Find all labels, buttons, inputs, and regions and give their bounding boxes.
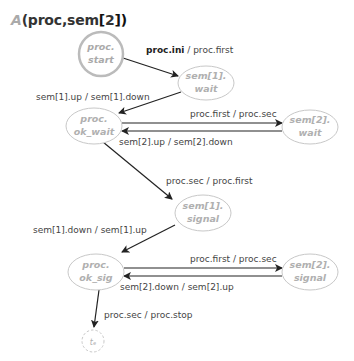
svg-text:ok_sig: ok_sig xyxy=(79,272,113,283)
node-sem2-wait: sem[2]. wait xyxy=(282,110,338,144)
svg-text:signal: signal xyxy=(294,272,327,283)
svg-text:proc.: proc. xyxy=(81,259,109,270)
svg-text:wait: wait xyxy=(195,83,218,94)
svg-text:start: start xyxy=(88,54,114,65)
svg-text:wait: wait xyxy=(299,127,322,138)
edge-label-start: proc.ini / proc.first xyxy=(146,45,234,55)
edge-label-sec-stop: proc.sec / proc.stop xyxy=(104,310,193,320)
edge-label-first-sec-wait: proc.first / proc.sec xyxy=(190,109,277,119)
edge-label-sem2-up: sem[2].up / sem[2].down xyxy=(119,137,233,147)
edge-label-sem1-down: sem[1].down / sem[1].up xyxy=(33,225,147,235)
edge-label-first-sec-sig: proc.first / proc.sec xyxy=(190,254,277,264)
edge-ok-wait-to-sem1-signal xyxy=(103,142,172,199)
edge-start-to-sem1-wait xyxy=(120,57,178,76)
svg-text:proc.: proc. xyxy=(86,41,114,52)
node-proc-ok-sig: proc. ok_sig xyxy=(68,254,124,290)
svg-text:tₑ: tₑ xyxy=(90,338,96,347)
node-proc-start: proc. start xyxy=(79,32,123,76)
state-diagram: proc.ini / proc.first sem[1].up / sem[1]… xyxy=(0,0,354,361)
edge-label-sem2-down: sem[2].down / sem[2].up xyxy=(120,282,234,292)
svg-text:ok_wait: ok_wait xyxy=(74,126,115,137)
node-sem2-signal: sem[2]. signal xyxy=(282,254,338,290)
edge-ok-sig-to-end xyxy=(94,290,99,327)
edge-label-sec-first: proc.sec / proc.first xyxy=(166,176,253,186)
node-sem1-signal: sem[1]. signal xyxy=(175,195,231,231)
svg-text:sem[1].: sem[1]. xyxy=(183,200,224,211)
node-end-state: tₑ xyxy=(82,330,104,352)
svg-text:sem[1].: sem[1]. xyxy=(186,70,227,81)
svg-text:signal: signal xyxy=(187,213,220,224)
svg-text:proc.: proc. xyxy=(79,113,107,124)
edge-label-sem1-up: sem[1].up / sem[1].down xyxy=(36,92,150,102)
edge-trigger-proc-ini: proc.ini xyxy=(146,45,184,55)
node-proc-ok-wait: proc. ok_wait xyxy=(66,108,122,144)
edge-action-proc-first: / proc.first xyxy=(184,45,233,55)
node-sem1-wait: sem[1]. wait xyxy=(178,66,234,100)
svg-text:sem[2].: sem[2]. xyxy=(290,114,331,125)
svg-text:sem[2].: sem[2]. xyxy=(290,259,331,270)
